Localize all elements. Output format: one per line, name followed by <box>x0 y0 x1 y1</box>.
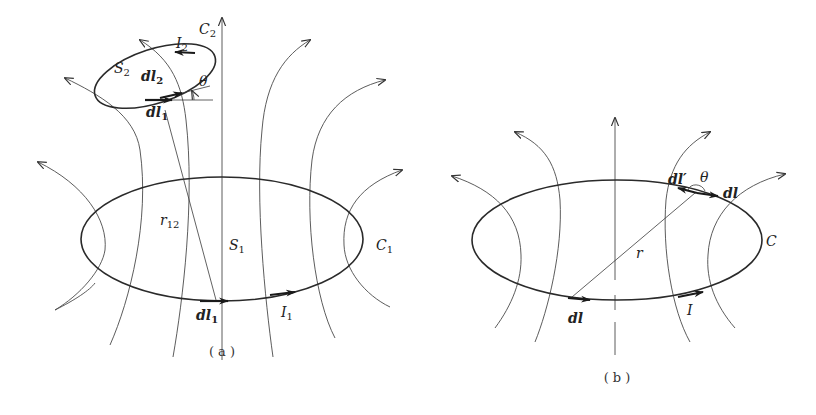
label-i1: I1 <box>280 304 293 322</box>
r-line <box>572 193 695 297</box>
label-c1: C1 <box>376 237 393 255</box>
label-dl-top: dl <box>723 185 738 201</box>
label-s1: S1 <box>229 237 245 255</box>
magnetic-flux-figure: I2 C2 S2 dl2 θ dl1 r12 S1 C1 I1 dl1 ( a … <box>0 0 816 415</box>
field-lines-b <box>452 118 785 355</box>
field-line <box>65 78 143 345</box>
field-lines-a <box>38 18 402 360</box>
label-r: r <box>636 245 644 261</box>
label-theta-a: θ <box>199 73 208 89</box>
diagram-a: I2 C2 S2 dl2 θ dl1 r12 S1 C1 I1 dl1 ( a … <box>38 18 402 360</box>
label-r12: r12 <box>160 212 179 230</box>
label-i: I <box>686 302 693 318</box>
caption-a: ( a ) <box>209 344 235 359</box>
diagram-b: dl′ θ dl C r dl I ( b ) <box>452 118 785 385</box>
r12-line <box>165 110 216 300</box>
dl-top-vector <box>697 193 718 196</box>
label-dl-prime: dl′ <box>668 171 687 187</box>
field-line <box>140 40 189 357</box>
label-dl1-bottom: dl1 <box>196 307 218 325</box>
label-dl1-top: dl1 <box>146 104 168 122</box>
label-dl-bottom: dl <box>568 310 583 326</box>
label-c: C <box>766 233 777 249</box>
field-line <box>310 80 385 338</box>
label-c2: C2 <box>199 21 216 39</box>
label-theta-b: θ <box>700 169 709 185</box>
caption-b: ( b ) <box>604 370 631 385</box>
label-dl2: dl2 <box>141 68 163 86</box>
field-line <box>38 162 105 310</box>
theta-arc <box>192 91 194 100</box>
loop-c <box>472 180 762 300</box>
field-line <box>344 170 402 307</box>
label-i2: I2 <box>175 35 188 53</box>
label-s2: S2 <box>114 60 130 78</box>
field-line <box>515 132 560 342</box>
current-i1-arrow <box>270 292 295 295</box>
